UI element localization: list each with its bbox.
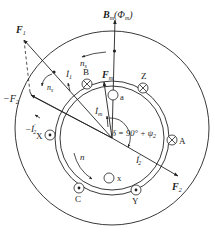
conductor-C: C: [74, 183, 84, 204]
minusF2-label: −F2: [3, 93, 19, 105]
delta-label: δ = 90° + ψ2: [112, 128, 156, 139]
F1-label: F1: [15, 24, 26, 36]
conductor-Y: Y: [131, 185, 141, 206]
conductor-X: X: [36, 130, 55, 141]
svg-text:X: X: [36, 131, 43, 141]
rotor-conductor-x: x: [104, 173, 122, 183]
rotor-speed-label: n: [80, 152, 85, 162]
svg-text:Y: Y: [132, 196, 139, 206]
I2-label: İ'2: [135, 154, 141, 166]
svg-text:Z: Z: [141, 71, 147, 81]
conductor-A: A: [167, 135, 186, 146]
minusI2-arrow: [35, 115, 40, 118]
I1-label: İ1: [65, 69, 72, 80]
F2-label: F2: [171, 181, 182, 193]
svg-text:C: C: [75, 194, 81, 204]
ns-arc-top: [82, 52, 106, 57]
rotor-conductor-a: a: [108, 90, 124, 102]
Im-arrow: [107, 116, 108, 127]
Bm-axis-dot: [113, 49, 116, 52]
svg-text:A: A: [179, 136, 186, 146]
conductor-Z: Z: [138, 71, 148, 93]
F1-vector: [24, 40, 112, 138]
conductor-B: B: [82, 67, 92, 89]
svg-text:x: x: [117, 173, 122, 183]
F1-point: [52, 70, 55, 73]
svg-text:B: B: [83, 67, 89, 77]
minusI2-label: −İ'2: [25, 123, 36, 135]
F1-dashed-construction: [24, 40, 30, 92]
Bm-label: Bm(Φm): [102, 9, 133, 21]
Fm-label: Fm: [101, 69, 114, 81]
ns-left-label: ns: [47, 83, 53, 93]
svg-text:a: a: [120, 92, 124, 102]
Im-label: İm: [94, 106, 103, 117]
induction-motor-phasor-diagram: ns Bm(Φm) F1 ns −F2 İ1 Fm İm −İ'2 δ = 90…: [0, 0, 215, 243]
